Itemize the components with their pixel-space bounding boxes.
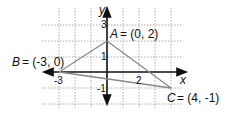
triangle-abc xyxy=(59,41,171,88)
tick-xneg3: -3 xyxy=(54,75,63,86)
svg-text:B: B xyxy=(12,55,20,69)
point-c-label: C = (4, -1) xyxy=(167,91,219,105)
coordinate-plane: y x 3 1 -1 -3 2 A = (0, 2) B = (-3, 0) C… xyxy=(0,0,228,116)
tick-y1: 1 xyxy=(101,51,107,62)
svg-text:C: C xyxy=(167,91,176,105)
y-axis-label: y xyxy=(98,3,106,17)
tick-yneg1: -1 xyxy=(97,83,106,94)
x-axis-label: x xyxy=(179,73,187,87)
tick-x2: 2 xyxy=(136,75,142,86)
svg-text:= (0, 2): = (0, 2) xyxy=(120,27,158,41)
point-a-label: A = (0, 2) xyxy=(109,27,158,41)
svg-text:A: A xyxy=(109,27,118,41)
tick-y3: 3 xyxy=(101,19,107,30)
svg-text:= (-3, 0): = (-3, 0) xyxy=(22,55,64,69)
svg-text:= (4, -1): = (4, -1) xyxy=(177,91,219,105)
axes xyxy=(44,8,186,104)
point-b-label: B = (-3, 0) xyxy=(12,55,64,69)
